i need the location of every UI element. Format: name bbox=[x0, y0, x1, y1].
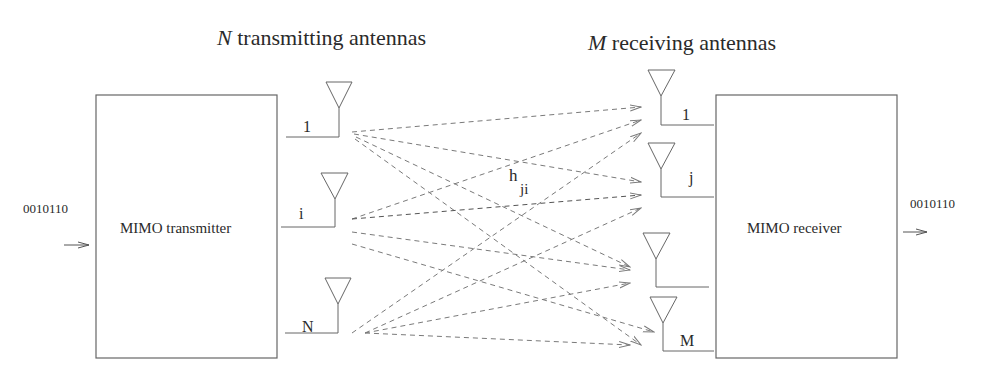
channel-coefficient-subscript: ji bbox=[519, 181, 528, 197]
antenna-icon bbox=[648, 143, 675, 169]
tx-antenna-label: 1 bbox=[303, 118, 311, 135]
receiver-label: MIMO receiver bbox=[747, 220, 842, 236]
antenna-icon bbox=[326, 82, 352, 108]
rx-antenna-label: j bbox=[688, 169, 693, 187]
tx-antenna-label: N bbox=[302, 318, 314, 335]
tx-antenna-n: N bbox=[285, 278, 351, 335]
rx-antenna-j: j bbox=[648, 143, 714, 197]
antenna-icon bbox=[650, 297, 677, 323]
tx-antenna-1: 1 bbox=[286, 82, 352, 137]
channel-coefficient-label: h bbox=[509, 166, 518, 185]
antenna-icon bbox=[325, 278, 351, 304]
antenna-icon bbox=[321, 173, 348, 199]
rx-antenna-m: M bbox=[650, 297, 714, 351]
antenna-icon bbox=[643, 233, 670, 259]
output-bits: 0010110 bbox=[910, 196, 955, 211]
rx-antenna-3 bbox=[643, 233, 709, 287]
input-bits: 0010110 bbox=[23, 201, 68, 216]
rx-antenna-1: 1 bbox=[648, 70, 714, 125]
antenna-icon bbox=[648, 70, 675, 96]
transmitter-label: MIMO transmitter bbox=[120, 220, 231, 236]
tx-antenna-i: i bbox=[281, 173, 348, 227]
tx-antenna-label: i bbox=[299, 205, 304, 222]
channel-links bbox=[352, 107, 654, 345]
rx-antenna-label: 1 bbox=[682, 106, 690, 123]
tx-antennas-title: N transmitting antennas bbox=[216, 25, 426, 50]
rx-antennas-title: M receiving antennas bbox=[587, 30, 776, 55]
rx-antenna-label: M bbox=[680, 332, 694, 349]
mimo-diagram: N transmitting antennas M receiving ante… bbox=[0, 0, 993, 372]
